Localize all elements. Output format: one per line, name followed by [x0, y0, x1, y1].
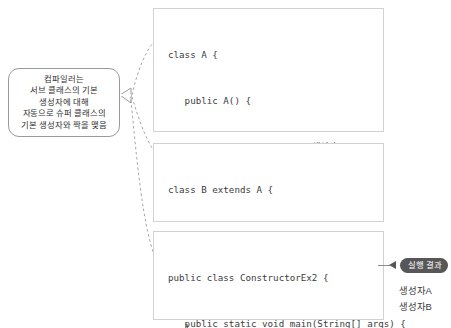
callout-note: 컴파일러는 서브 클래스의 기본 생성자에 대해 자동으로 슈퍼 클래스의 기본…: [8, 68, 120, 137]
program-output: 생성자A 생성자B: [399, 283, 431, 314]
callout-line: 생성자에 대해: [13, 97, 115, 108]
code-block-class-b: class B extends A { public B() { System.…: [153, 143, 384, 222]
callout-line: 기본 생성자와 짝을 맺음: [13, 120, 115, 131]
code-line: public A() {: [168, 93, 383, 108]
result-arrow-icon: [389, 261, 396, 269]
output-line: 생성자B: [399, 299, 431, 315]
diagram-canvas: 컴파일러는 서브 클래스의 기본 생성자에 대해 자동으로 슈퍼 클래스의 기본…: [0, 0, 451, 328]
callout-line: 서브 클래스의 기본: [13, 85, 115, 96]
code-line: public class ConstructorEx2 {: [168, 270, 383, 285]
result-badge: 실행 결과: [400, 258, 448, 273]
code-block-constructorex2: public class ConstructorEx2 { public sta…: [153, 231, 384, 320]
code-block-class-a: class A { public A() { System.out.printl…: [153, 8, 384, 132]
callout-line: 자동으로 슈퍼 클래스의: [13, 108, 115, 119]
callout-tail: [120, 88, 131, 103]
callout-line: 컴파일러는: [13, 74, 115, 85]
code-line: class B extends A {: [168, 182, 383, 197]
output-line: 생성자A: [399, 283, 431, 299]
code-line: class A {: [168, 47, 383, 62]
code-line: public static void main(String[] args) {: [168, 316, 383, 328]
